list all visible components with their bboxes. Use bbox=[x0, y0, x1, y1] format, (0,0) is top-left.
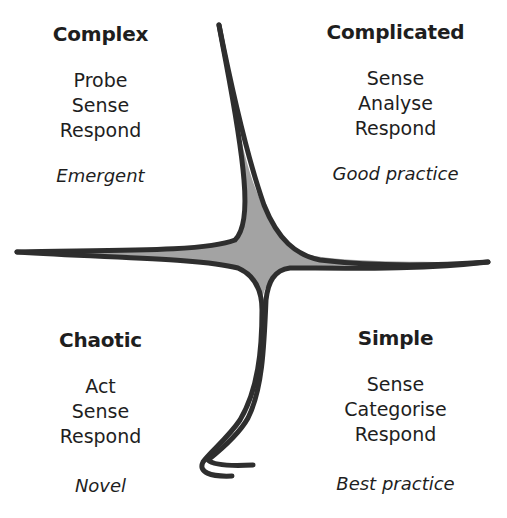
quadrant-steps: Sense Categorise Respond bbox=[318, 372, 473, 447]
quadrant-steps: Probe Sense Respond bbox=[28, 68, 173, 143]
quadrant-chaotic: Chaotic Act Sense Respond Novel bbox=[28, 328, 173, 496]
quadrant-title: Simple bbox=[318, 326, 473, 350]
step: Respond bbox=[318, 116, 473, 141]
step: Sense bbox=[28, 93, 173, 118]
step: Sense bbox=[28, 399, 173, 424]
quadrant-complicated: Complicated Sense Analyse Respond Good p… bbox=[318, 20, 473, 184]
step: Analyse bbox=[318, 91, 473, 116]
quadrant-complex: Complex Probe Sense Respond Emergent bbox=[28, 22, 173, 186]
step: Sense bbox=[318, 66, 473, 91]
quadrant-simple: Simple Sense Categorise Respond Best pra… bbox=[318, 326, 473, 494]
quadrant-steps: Sense Analyse Respond bbox=[318, 66, 473, 141]
step: Respond bbox=[318, 422, 473, 447]
step: Categorise bbox=[318, 397, 473, 422]
quadrant-steps: Act Sense Respond bbox=[28, 374, 173, 449]
quadrant-title: Complex bbox=[28, 22, 173, 46]
quadrant-practice: Best practice bbox=[318, 473, 473, 494]
quadrant-title: Chaotic bbox=[28, 328, 173, 352]
step: Respond bbox=[28, 118, 173, 143]
quadrant-practice: Emergent bbox=[28, 165, 173, 186]
step: Sense bbox=[318, 372, 473, 397]
quadrant-title: Complicated bbox=[318, 20, 473, 44]
step: Probe bbox=[28, 68, 173, 93]
quadrant-practice: Novel bbox=[28, 475, 173, 496]
step: Act bbox=[28, 374, 173, 399]
quadrant-practice: Good practice bbox=[318, 163, 473, 184]
step: Respond bbox=[28, 424, 173, 449]
